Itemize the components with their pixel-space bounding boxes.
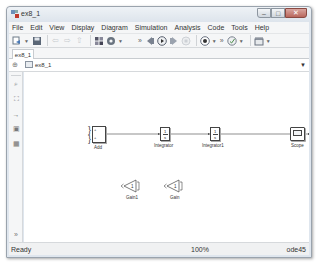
menu-help[interactable]: Help (255, 24, 269, 31)
add-label: Add (94, 145, 102, 150)
gain1-label: Gain1 (126, 195, 138, 200)
model-config-icon[interactable] (106, 36, 116, 46)
arrow-icon[interactable]: → (12, 110, 20, 118)
status-text: Ready (11, 246, 31, 253)
menu-view[interactable]: View (49, 24, 64, 31)
build-dropdown[interactable]: ▼ (266, 38, 271, 44)
menu-edit[interactable]: Edit (30, 24, 42, 31)
menu-diagram[interactable]: Diagram (101, 24, 127, 31)
add-port-2: + (94, 135, 96, 140)
menu-tools[interactable]: Tools (231, 24, 247, 31)
integrator1-den: s (214, 135, 216, 140)
menu-file[interactable]: File (12, 24, 23, 31)
gain-label: Gain (170, 195, 180, 200)
new-model-dropdown[interactable]: ▼ (24, 38, 29, 44)
scope-block[interactable] (290, 127, 305, 141)
expand-sidebar-icon[interactable]: » (12, 230, 20, 238)
menu-bar: File Edit View Display Diagram Simulatio… (9, 22, 309, 33)
simulink-window: ex8_1 – □ ✕ File Edit View Display Diagr… (6, 6, 312, 258)
step-forward-icon[interactable] (169, 36, 179, 46)
address-dropdown-icon[interactable]: ▼ (300, 62, 306, 68)
title-bar[interactable]: ex8_1 – □ ✕ (7, 7, 311, 22)
model-config-dropdown[interactable]: ▼ (118, 38, 123, 44)
gain-block[interactable]: 1 (163, 179, 185, 193)
model-advisor-dropdown[interactable]: ▼ (239, 38, 244, 44)
toolbar-overflow-2[interactable]: » (220, 37, 224, 44)
add-input-brace: }} (88, 126, 91, 144)
close-button[interactable]: ✕ (285, 8, 307, 18)
stop-icon[interactable] (181, 36, 191, 46)
zoom-icon[interactable]: ⌕ (12, 80, 20, 88)
address-bar: ⊕ ex8_1 ▼ (9, 59, 309, 72)
integrator-block[interactable]: 1 s (160, 127, 170, 141)
integrator1-block[interactable]: 1 s (210, 127, 220, 141)
image-icon[interactable]: ▦ (12, 140, 20, 148)
solver-name[interactable]: ode45 (287, 246, 306, 253)
minimize-button[interactable]: – (257, 8, 271, 18)
new-model-icon[interactable] (12, 36, 22, 46)
breadcrumb[interactable]: ex8_1 (25, 61, 51, 68)
fit-view-icon[interactable]: ⛶ (12, 95, 20, 103)
signal-lines (24, 72, 309, 242)
back-arrow-icon[interactable]: ⇦ (51, 36, 61, 46)
step-back-icon[interactable] (145, 36, 155, 46)
forward-arrow-icon[interactable]: ⇨ (63, 36, 73, 46)
window-title: ex8_1 (21, 10, 40, 17)
annotation-icon[interactable]: ▣ (12, 125, 20, 133)
breadcrumb-model[interactable]: ex8_1 (35, 62, 51, 68)
hide-explorer-icon[interactable]: ⊕ (12, 61, 18, 69)
status-bar: Ready 100% ode45 (9, 242, 309, 255)
build-icon[interactable] (254, 36, 264, 46)
integrator1-label: Integrator1 (202, 143, 224, 148)
model-tabs: ex8_1 (9, 48, 309, 59)
scope-label: Scope (291, 143, 304, 148)
up-arrow-icon[interactable]: ⇧ (75, 36, 85, 46)
maximize-button[interactable]: □ (271, 8, 285, 18)
menu-code[interactable]: Code (208, 24, 225, 31)
diagram-canvas[interactable]: + + }} Add 1 s Integrator 1 s Integrator… (24, 72, 309, 242)
palette-sidebar: ⌕ ⛶ → ▣ ▦ » (9, 72, 23, 242)
simulink-app-icon (11, 10, 19, 18)
tab-ex8-1[interactable]: ex8_1 (12, 49, 34, 59)
toolbar-overflow[interactable]: » (138, 37, 142, 44)
integrator-den: s (164, 135, 166, 140)
menu-analysis[interactable]: Analysis (174, 24, 200, 31)
run-icon[interactable] (157, 36, 167, 46)
zoom-level: 100% (191, 246, 209, 253)
library-browser-icon[interactable] (94, 36, 104, 46)
menu-simulation[interactable]: Simulation (135, 24, 168, 31)
menu-display[interactable]: Display (71, 24, 94, 31)
model-advisor-icon[interactable] (227, 36, 237, 46)
model-icon (25, 61, 33, 68)
add-block[interactable]: + + (92, 126, 106, 143)
record-icon[interactable] (200, 36, 210, 46)
record-dropdown[interactable]: ▼ (212, 38, 217, 44)
add-port-1: + (94, 127, 96, 132)
toolbar: ▼ ⇦ ⇨ ⇧ ▼ » ▼ » ▼ ▼ (9, 33, 309, 48)
gain1-block[interactable]: 1 (120, 179, 142, 193)
save-icon[interactable] (32, 36, 42, 46)
integrator-label: Integrator (154, 143, 173, 148)
